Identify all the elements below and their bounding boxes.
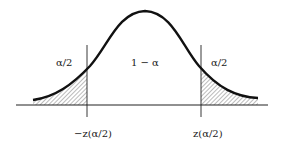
right-critical-label: z(α/2)	[193, 128, 223, 139]
center-area-label: 1 − α	[131, 57, 159, 68]
bell-curve	[33, 11, 258, 100]
left-tail-label: α/2	[56, 57, 72, 68]
left-critical-label: −z(α/2)	[74, 128, 112, 139]
right-tail-label: α/2	[211, 57, 227, 68]
normal-curve-diagram	[0, 0, 283, 152]
